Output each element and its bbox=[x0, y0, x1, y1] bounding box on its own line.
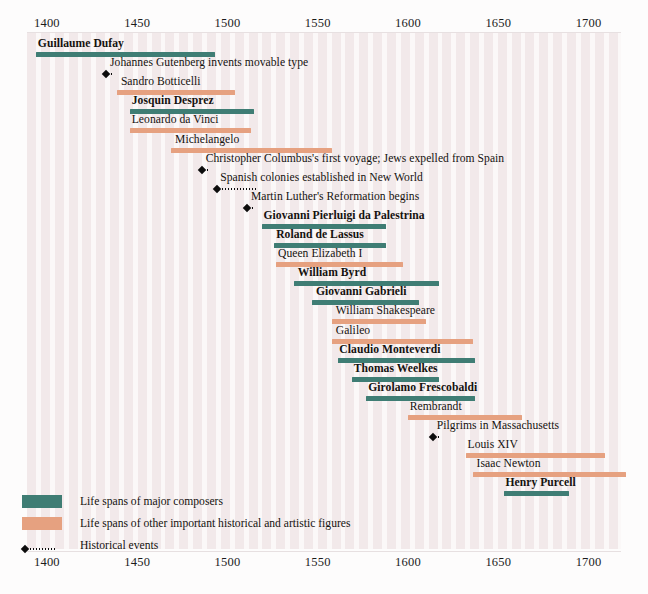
row-label: William Byrd bbox=[298, 267, 366, 279]
legend-label-composers: Life spans of major composers bbox=[80, 492, 223, 511]
row-label: Galileo bbox=[336, 325, 370, 337]
timeline-chart: 1400145015001550160016501700 Guillaume D… bbox=[0, 0, 648, 594]
row-label: Thomas Weelkes bbox=[354, 363, 438, 375]
axis-tick-bottom-1500: 1500 bbox=[215, 555, 241, 570]
row-label: Spanish colonies established in New Worl… bbox=[220, 172, 423, 184]
legend-swatch-figure bbox=[22, 517, 62, 530]
top-caption bbox=[0, 0, 648, 16]
legend-row-composers: Life spans of major composers bbox=[22, 492, 442, 514]
row-label: Guillaume Dufay bbox=[38, 38, 124, 50]
dotted-line-icon bbox=[27, 548, 56, 550]
axis-tick-top-1700: 1700 bbox=[576, 16, 602, 31]
legend-label-figures: Life spans of other important historical… bbox=[80, 514, 350, 533]
row-label: Pilgrims in Massachusetts bbox=[437, 420, 559, 432]
axis-tick-bottom-1600: 1600 bbox=[395, 555, 421, 570]
row-label: Giovanni Gabrieli bbox=[316, 286, 407, 298]
row-label: William Shakespeare bbox=[336, 305, 435, 317]
axis-tick-bottom-1550: 1550 bbox=[305, 555, 331, 570]
axis-tick-bottom-1650: 1650 bbox=[485, 555, 511, 570]
legend: Life spans of major composers Life spans… bbox=[22, 492, 442, 558]
row-label: Roland de Lassus bbox=[276, 229, 364, 241]
row-label: Queen Elizabeth I bbox=[278, 248, 363, 260]
row-label: Isaac Newton bbox=[477, 458, 541, 470]
row-label: Giovanni Pierluigi da Palestrina bbox=[264, 210, 425, 222]
row-label: Louis XIV bbox=[468, 439, 518, 451]
axis-bottom-rule bbox=[27, 551, 621, 552]
row-label: Johannes Gutenberg invents movable type bbox=[110, 57, 308, 69]
axis-bottom: 1400145015001550160016501700 bbox=[0, 555, 648, 573]
row-label: Rembrandt bbox=[410, 401, 462, 413]
axis-tick-top-1600: 1600 bbox=[395, 16, 421, 31]
axis-tick-top-1650: 1650 bbox=[485, 16, 511, 31]
axis-tick-top-1500: 1500 bbox=[215, 16, 241, 31]
axis-tick-top-1550: 1550 bbox=[305, 16, 331, 31]
row-label: Henry Purcell bbox=[505, 477, 575, 489]
legend-swatch-composer bbox=[22, 495, 62, 508]
axis-tick-top-1400: 1400 bbox=[34, 16, 60, 31]
row-label: Josquin Desprez bbox=[132, 95, 214, 107]
row-label: Leonardo da Vinci bbox=[132, 114, 219, 126]
legend-label-events: Historical events bbox=[80, 536, 158, 555]
axis-tick-bottom-1450: 1450 bbox=[124, 555, 150, 570]
lifespan-bar bbox=[504, 491, 569, 496]
axis-tick-top-1450: 1450 bbox=[124, 16, 150, 31]
row-label: Michelangelo bbox=[175, 134, 239, 146]
row-label: Girolamo Frescobaldi bbox=[368, 382, 477, 394]
legend-row-figures: Life spans of other important historical… bbox=[22, 514, 442, 536]
axis-tick-bottom-1700: 1700 bbox=[576, 555, 602, 570]
row-label: Claudio Monteverdi bbox=[339, 344, 440, 356]
row-label: Christopher Columbus's first voyage; Jew… bbox=[206, 153, 505, 165]
axis-tick-bottom-1400: 1400 bbox=[34, 555, 60, 570]
row-label: Sandro Botticelli bbox=[121, 76, 201, 88]
row-label: Martin Luther's Reformation begins bbox=[251, 191, 419, 203]
